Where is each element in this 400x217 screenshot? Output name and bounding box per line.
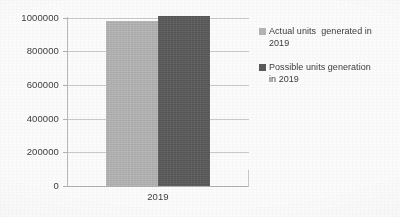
legend-label-possible-units: Possible units generation in 2019 xyxy=(269,62,371,85)
chart-legend: Actual units generated in 2019 Possible … xyxy=(259,26,395,98)
bar-possible-units-2019 xyxy=(158,16,210,186)
y-axis-label-200000: 200000 xyxy=(27,147,59,157)
bar-texture xyxy=(106,21,158,186)
y-axis-label-400000: 400000 xyxy=(27,114,59,124)
y-axis-label-800000: 800000 xyxy=(27,46,59,56)
x-axis-label-2019: 2019 xyxy=(128,191,188,202)
legend-label-actual-units: Actual units generated in 2019 xyxy=(269,26,372,49)
plot-area xyxy=(68,18,249,186)
y-axis-label-0: 0 xyxy=(54,181,59,191)
plot-area-right-edge xyxy=(248,170,249,187)
bar-chart-figure: 1000000 800000 600000 400000 200000 0 20… xyxy=(0,0,400,217)
legend-item-actual-units: Actual units generated in 2019 xyxy=(259,26,395,49)
y-axis-label-1000000: 1000000 xyxy=(21,13,59,23)
y-axis-label-600000: 600000 xyxy=(27,80,59,90)
legend-swatch-icon xyxy=(259,28,266,35)
bar-texture xyxy=(158,16,210,186)
legend-swatch-icon xyxy=(259,64,266,71)
legend-item-possible-units: Possible units generation in 2019 xyxy=(259,62,395,85)
bar-actual-units-2019 xyxy=(106,21,158,186)
gridline-baseline-0 xyxy=(68,186,249,187)
